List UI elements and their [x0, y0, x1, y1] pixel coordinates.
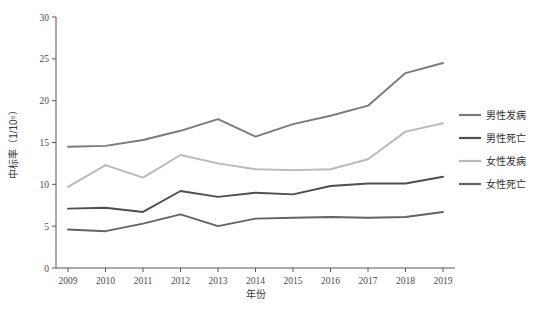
y-tick-label: 25: [40, 54, 50, 64]
series-line-男性死亡: [68, 177, 443, 212]
x-tick-label: 2012: [171, 276, 190, 286]
x-tick-label: 2011: [134, 276, 153, 286]
x-tick-label: 2010: [96, 276, 115, 286]
series-line-男性发病: [68, 63, 443, 147]
line-chart: 051015202530 200920102011201220132014201…: [0, 0, 543, 311]
x-axis-title: 年份: [246, 288, 266, 300]
legend-label: 女性死亡: [486, 178, 526, 190]
x-tick-label: 2013: [209, 276, 228, 286]
y-tick-label: 20: [40, 96, 50, 106]
x-tick-label: 2015: [284, 276, 303, 286]
x-tick-label: 2014: [246, 276, 265, 286]
x-tick-label: 2017: [359, 276, 378, 286]
legend-item[interactable]: 女性死亡: [459, 178, 526, 190]
series-lines: [68, 63, 443, 231]
y-tick-label: 10: [40, 180, 50, 190]
y-tick-label: 5: [44, 222, 49, 232]
chart-figure: 051015202530 200920102011201220132014201…: [0, 0, 543, 311]
legend-item[interactable]: 男性死亡: [459, 132, 526, 144]
legend-label: 男性发病: [486, 109, 526, 121]
legend-label: 女性发病: [486, 155, 526, 167]
x-tick-label: 2018: [396, 276, 415, 286]
x-tick-label: 2009: [59, 276, 78, 286]
series-line-女性死亡: [68, 212, 443, 231]
y-axis-title: 中标率（1/10⁵）: [7, 105, 19, 179]
series-line-女性发病: [68, 123, 443, 187]
x-tick-label: 2016: [321, 276, 340, 286]
legend-item[interactable]: 男性发病: [459, 109, 526, 121]
y-axis-ticks: 051015202530: [40, 13, 57, 274]
x-axis-ticks: 2009201020112012201320142015201620172018…: [59, 268, 453, 286]
y-tick-label: 0: [44, 264, 49, 274]
legend-item[interactable]: 女性发病: [459, 155, 526, 167]
y-tick-label: 30: [40, 13, 50, 23]
chart-legend: 男性发病男性死亡女性发病女性死亡: [459, 109, 526, 190]
x-tick-label: 2019: [434, 276, 453, 286]
y-tick-label: 15: [40, 138, 50, 148]
legend-label: 男性死亡: [486, 132, 526, 144]
